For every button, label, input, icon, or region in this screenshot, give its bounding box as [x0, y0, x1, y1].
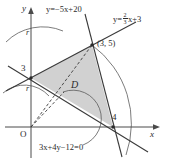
y-intercept-tick-label: 3	[21, 64, 26, 73]
x-axis-arrowhead	[153, 124, 160, 130]
point-label-3-5: (3, 5)	[97, 39, 115, 48]
line-shallow-equation-suffix: x+3	[128, 14, 141, 24]
dot-right-vertex	[111, 125, 114, 128]
origin-label: O	[20, 130, 27, 139]
x-axis-label: x	[150, 130, 154, 139]
x-intercept-tick-label: 4	[112, 113, 117, 122]
y-axis-label: y	[22, 4, 26, 13]
math-diagram-figure: y x O y=−5x+20 y=23x+3 3x+4y−12=0 (3, 5)…	[0, 0, 170, 161]
line-shallow-equation-prefix: y=	[113, 14, 122, 24]
arc-outer-upper	[6, 27, 63, 42]
line-steep-equation: y=−5x+20	[46, 5, 82, 14]
fraction-denominator: 3	[123, 18, 128, 25]
dot-top-vertex	[90, 43, 93, 46]
arc-inner-lower-radius-label: r	[26, 85, 29, 93]
y-axis-arrowhead	[28, 7, 34, 14]
dot-left-vertex	[29, 76, 32, 79]
line-lower-equation: 3x+4y−12=0	[39, 143, 83, 152]
line-shallow-equation: y=23x+3	[113, 12, 141, 25]
arc-outer-upper-radius-label: r	[26, 29, 29, 37]
dashed-origin-to-foot	[31, 92, 64, 127]
region-label-D: D	[71, 80, 78, 90]
fraction-two-thirds: 23	[123, 12, 128, 25]
